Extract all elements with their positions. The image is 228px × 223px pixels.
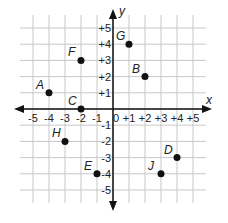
x-tick-label: -2: [76, 112, 86, 124]
point-dot-icon: [46, 89, 53, 96]
point-label: A: [35, 78, 44, 92]
x-tick-label: +3: [155, 112, 168, 124]
coordinate-plane: x y -5-4-3-2-10+1+2+3+4+5+5+4+3+2+1-1-2-…: [0, 0, 228, 223]
y-axis-down-arrow-icon: [109, 201, 117, 211]
point-dot-icon: [94, 170, 101, 177]
point-j: J: [147, 159, 165, 178]
y-axis-label: y: [118, 4, 126, 18]
y-tick-label: +1: [98, 87, 111, 99]
point-dot-icon: [78, 106, 85, 113]
point-g: G: [116, 29, 133, 48]
y-tick-label: -1: [101, 119, 111, 131]
point-dot-icon: [62, 138, 69, 145]
x-tick-label: 0: [113, 112, 119, 124]
point-h: H: [52, 126, 69, 145]
y-axis-up-arrow-icon: [109, 9, 117, 19]
x-axis-label: x: [205, 93, 213, 107]
point-dot-icon: [126, 41, 133, 48]
y-tick-label: +3: [98, 54, 111, 66]
x-tick-label: +4: [171, 112, 184, 124]
x-tick-label: +5: [187, 112, 200, 124]
x-tick-label: -3: [60, 112, 70, 124]
point-label: F: [68, 45, 76, 59]
y-tick-label: -5: [101, 184, 111, 196]
point-a: A: [35, 78, 53, 97]
point-d: D: [164, 143, 181, 162]
point-label: C: [68, 94, 77, 108]
point-label: E: [84, 159, 93, 173]
x-tick-label: -5: [28, 112, 38, 124]
x-tick-label: +2: [139, 112, 152, 124]
point-dot-icon: [142, 73, 149, 80]
y-tick-label: -3: [101, 152, 111, 164]
y-tick-label: -4: [101, 168, 111, 180]
point-label: D: [164, 143, 173, 157]
x-axis-left-arrow-icon: [14, 105, 24, 113]
point-label: H: [52, 126, 61, 140]
y-tick-label: +5: [98, 22, 111, 34]
point-label: B: [132, 62, 140, 76]
y-tick-label: +2: [98, 71, 111, 83]
point-dot-icon: [174, 154, 181, 161]
x-tick-label: +1: [123, 112, 136, 124]
point-dot-icon: [78, 57, 85, 64]
point-f: F: [68, 45, 85, 64]
axes: x y: [14, 4, 213, 211]
point-dot-icon: [158, 170, 165, 177]
y-tick-label: -2: [101, 135, 111, 147]
point-label: G: [116, 29, 125, 43]
point-b: B: [132, 62, 149, 81]
y-tick-label: +4: [98, 38, 111, 50]
point-e: E: [84, 159, 101, 178]
x-tick-label: -4: [44, 112, 54, 124]
point-label: J: [147, 159, 155, 173]
